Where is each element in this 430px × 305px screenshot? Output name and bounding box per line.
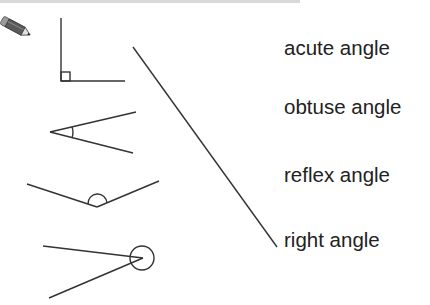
figure-obtuse-angle	[27, 181, 159, 207]
label-acute-angle: acute angle	[284, 38, 390, 59]
figure-reflex-angle	[43, 246, 154, 298]
figure-right-angle	[61, 18, 125, 81]
label-right-angle: right angle	[284, 230, 380, 251]
label-reflex-angle: reflex angle	[284, 165, 390, 186]
pencil-icon	[0, 16, 32, 39]
matching-line[interactable]	[133, 47, 277, 247]
label-obtuse-angle: obtuse angle	[284, 97, 401, 118]
figure-acute-angle	[50, 112, 136, 153]
